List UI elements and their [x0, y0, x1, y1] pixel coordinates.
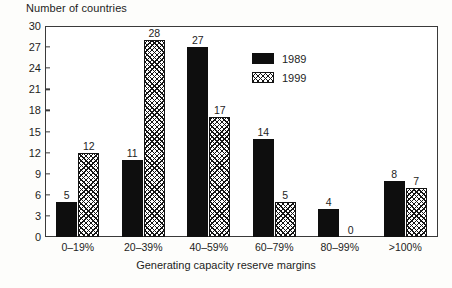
y-tick-label: 18: [29, 104, 41, 116]
bar-value-label: 17: [207, 104, 233, 116]
bar-value-label: 12: [76, 140, 102, 152]
bar-1989-40–59%: [187, 47, 208, 237]
bar-value-label: 28: [141, 27, 167, 39]
y-tick-label: 21: [29, 83, 41, 95]
y-tick-label: 6: [35, 189, 41, 201]
legend-item-1989: 1989: [252, 51, 306, 66]
x-tick-label: 40–59%: [174, 241, 244, 253]
solid-black-swatch-icon: [252, 53, 274, 64]
bar-value-label: 11: [119, 147, 145, 159]
bar-1989->100%: [384, 181, 405, 237]
legend-item-1999: 1999: [252, 70, 306, 85]
legend-label: 1989: [282, 53, 306, 65]
y-tick-label: 3: [35, 210, 41, 222]
y-tick-label: 12: [29, 147, 41, 159]
bar-1999-20–39%: [144, 40, 165, 237]
bar-1989-80–99%: [318, 209, 339, 237]
crosshatch-swatch-icon: [252, 72, 274, 83]
bar-value-label: 5: [54, 189, 80, 201]
bar-1999-60–79%: [275, 202, 296, 237]
bar-value-label: 27: [185, 34, 211, 46]
bars-layer: 512112827171454087: [45, 26, 438, 237]
bar-1999-40–59%: [209, 117, 230, 237]
x-tick-label: 60–79%: [239, 241, 309, 253]
bar-value-label: 0: [338, 224, 364, 236]
y-axis-title: Number of countries: [26, 2, 127, 14]
legend-label: 1999: [282, 72, 306, 84]
bar-value-label: 7: [403, 175, 429, 187]
bar-value-label: 14: [250, 126, 276, 138]
bar-value-label: 4: [316, 196, 342, 208]
x-tick-label: 0–19%: [43, 241, 113, 253]
bar-1989-60–79%: [253, 139, 274, 237]
y-tick-label: 27: [29, 41, 41, 53]
y-axis-labels: 036912151821242730: [0, 0, 41, 288]
bar-1989-0–19%: [56, 202, 77, 237]
bar-value-label: 5: [272, 189, 298, 201]
bar-1989-20–39%: [122, 160, 143, 237]
y-tick-label: 0: [35, 231, 41, 243]
y-tick-label: 30: [29, 20, 41, 32]
x-axis-title: Generating capacity reserve margins: [0, 259, 452, 271]
x-tick-label: >100%: [370, 241, 440, 253]
x-tick-label: 80–99%: [305, 241, 375, 253]
y-tick-label: 15: [29, 126, 41, 138]
bar-1999-0–19%: [78, 153, 99, 237]
bar-1999->100%: [406, 188, 427, 237]
legend: 1989 1999: [252, 51, 306, 89]
x-axis-labels: 0–19%20–39%40–59%60–79%80–99%>100%: [45, 241, 438, 259]
y-tick-label: 9: [35, 168, 41, 180]
x-tick-label: 20–39%: [108, 241, 178, 253]
bar-chart: Number of countries 036912151821242730 5…: [0, 0, 452, 288]
y-tick-label: 24: [29, 62, 41, 74]
